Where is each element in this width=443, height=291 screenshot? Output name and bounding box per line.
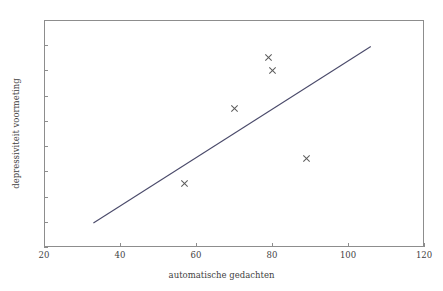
- y-axis-tick: [44, 197, 48, 198]
- x-axis-tick: [348, 243, 349, 247]
- data-point-marker: [302, 154, 311, 163]
- y-axis-tick: [44, 20, 48, 21]
- x-axis-tick: [196, 243, 197, 247]
- y-axis-tick: [44, 171, 48, 172]
- y-axis-tick: [44, 70, 48, 71]
- x-axis-title: automatische gedachten: [0, 270, 443, 280]
- x-axis-tick: [424, 243, 425, 247]
- scatter-plot-figure: depressiviteit voormeting automatische g…: [0, 0, 443, 291]
- x-axis-tick-label: 60: [176, 251, 216, 260]
- y-axis-tick: [44, 121, 48, 122]
- plot-area: [44, 20, 424, 247]
- y-axis-title: depressiviteit voormeting: [8, 20, 24, 247]
- trendline-svg: [44, 20, 424, 247]
- y-axis-tick: [44, 96, 48, 97]
- x-axis-tick-label: 80: [252, 251, 292, 260]
- data-point-marker: [230, 104, 239, 113]
- y-axis-tick: [44, 222, 48, 223]
- data-point-marker: [268, 66, 277, 75]
- data-point-marker: [180, 179, 189, 188]
- x-axis-tick: [120, 243, 121, 247]
- data-point-marker: [264, 53, 273, 62]
- regression-line: [93, 46, 370, 223]
- x-axis-tick-label: 20: [24, 251, 64, 260]
- x-axis-tick-label: 100: [328, 251, 368, 260]
- x-axis-tick-label: 40: [100, 251, 140, 260]
- y-axis-tick: [44, 146, 48, 147]
- y-axis-tick: [44, 247, 48, 248]
- x-axis-tick-label: 120: [404, 251, 443, 260]
- x-axis-tick: [272, 243, 273, 247]
- x-axis-tick: [44, 243, 45, 247]
- y-axis-tick: [44, 45, 48, 46]
